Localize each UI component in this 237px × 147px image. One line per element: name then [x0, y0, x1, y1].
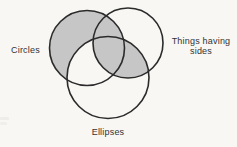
venn-diagram — [0, 0, 237, 147]
scan-artifact — [0, 122, 7, 125]
set-label-things-having-sides-line2: sides — [166, 47, 236, 57]
set-label-ellipses: Ellipses — [84, 127, 132, 137]
set-label-things-having-sides: Things having sides — [166, 37, 236, 56]
venn-figure: Circles Things having sides Ellipses — [0, 0, 237, 147]
scan-artifact — [0, 117, 9, 120]
set-label-circles: Circles — [11, 45, 40, 55]
